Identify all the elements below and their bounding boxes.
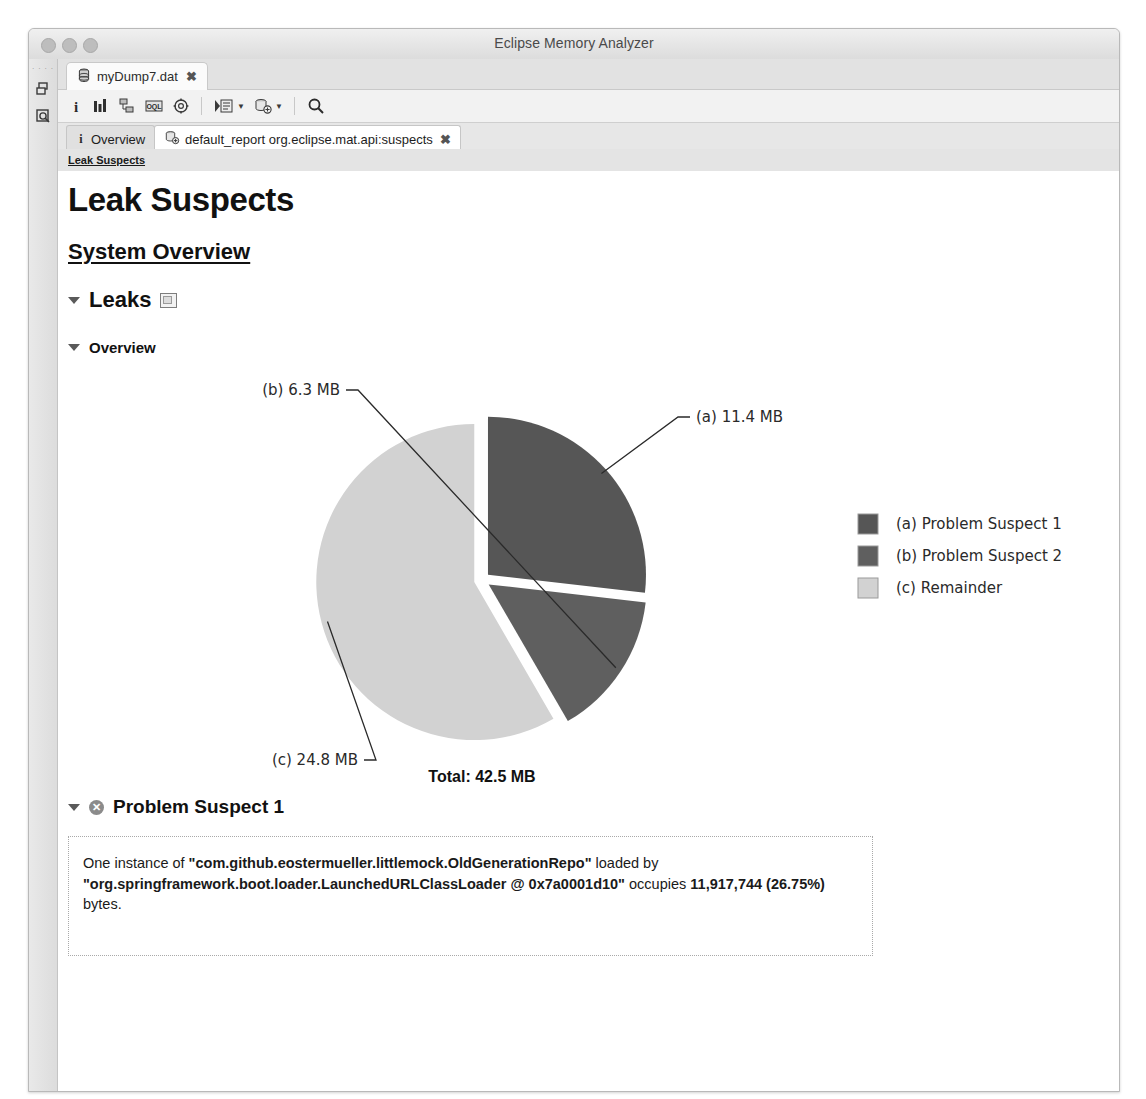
tab-overview-label: Overview bbox=[91, 132, 145, 147]
report-icon bbox=[164, 130, 180, 148]
svg-text:OQL: OQL bbox=[146, 103, 162, 111]
editor-tab-mydump7[interactable]: myDump7.dat ✖ bbox=[66, 62, 208, 90]
application-window: Eclipse Memory Analyzer · · · · bbox=[28, 28, 1120, 1092]
dominator-tree-icon[interactable] bbox=[118, 95, 136, 117]
legend-label-3: (c) Remainder bbox=[896, 579, 1003, 597]
section-problem-suspect-1-label: Problem Suspect 1 bbox=[113, 796, 284, 818]
legend-label-1: (a) Problem Suspect 1 bbox=[896, 515, 1062, 533]
inspector-gear-icon[interactable] bbox=[172, 95, 190, 117]
chevron-down-icon[interactable] bbox=[68, 804, 80, 811]
breadcrumb-link-leak-suspects[interactable]: Leak Suspects bbox=[68, 154, 145, 166]
open-in-new-window-icon[interactable] bbox=[160, 293, 177, 308]
legend-swatch-1 bbox=[858, 514, 878, 534]
query-browser-icon[interactable]: ▼ bbox=[253, 95, 283, 117]
legend-swatch-2 bbox=[858, 546, 878, 566]
error-icon: ✕ bbox=[89, 800, 104, 815]
overview-info-icon[interactable]: i bbox=[68, 95, 84, 117]
pie-slices bbox=[316, 417, 646, 740]
close-icon[interactable]: ✖ bbox=[186, 69, 197, 84]
leader-line-1 bbox=[601, 417, 690, 474]
leak-suspects-pie-chart: (a) 11.4 MB(b) 6.3 MB(c) 24.8 MB (a) Pro… bbox=[58, 362, 1119, 792]
chevron-down-icon[interactable]: ▼ bbox=[275, 102, 283, 111]
rail-drag-handle[interactable]: · · · · bbox=[32, 65, 54, 72]
pie-slice-1[interactable] bbox=[488, 417, 646, 593]
pie-legend: (a) Problem Suspect 1(b) Problem Suspect… bbox=[858, 514, 1062, 598]
desc-bytes: 11,917,744 (26.75%) bbox=[690, 876, 825, 892]
legend-swatch-3 bbox=[858, 578, 878, 598]
info-icon: i bbox=[76, 131, 86, 148]
desc-class-name: "com.github.eostermueller.littlemock.Old… bbox=[189, 855, 592, 871]
find-object-search-icon[interactable] bbox=[306, 95, 326, 117]
close-icon[interactable]: ✖ bbox=[440, 132, 451, 147]
desc-line1-post: loaded by bbox=[592, 855, 659, 871]
window-title: Eclipse Memory Analyzer bbox=[29, 35, 1119, 51]
view-tab-bar: i Overview bbox=[58, 123, 1119, 152]
editor-tab-bar: myDump7.dat ✖ bbox=[58, 59, 1119, 90]
system-overview-link[interactable]: System Overview bbox=[68, 239, 1119, 265]
report-content-area: Leak Suspects Leak Suspects System Overv… bbox=[58, 149, 1119, 1091]
editor-toolbar: i bbox=[58, 90, 1119, 123]
desc-line3-post: bytes. bbox=[83, 896, 122, 912]
fast-view-rail: · · · · bbox=[29, 59, 58, 1091]
desc-line1-pre: One instance of bbox=[83, 855, 189, 871]
section-problem-suspect-1[interactable]: ✕ Problem Suspect 1 bbox=[68, 796, 1119, 818]
desc-classloader: "org.springframework.boot.loader.Launche… bbox=[83, 876, 625, 892]
editor-area: myDump7.dat ✖ i bbox=[58, 59, 1119, 1091]
workbench-body: · · · · bbox=[29, 59, 1119, 1091]
pie-label-3: (c) 24.8 MB bbox=[272, 751, 358, 769]
histogram-icon[interactable] bbox=[92, 95, 110, 117]
problem-suspect-1-description: One instance of "com.github.eostermuelle… bbox=[68, 836, 873, 956]
svg-text:i: i bbox=[79, 132, 83, 145]
desc-line2-post: occupies bbox=[625, 876, 690, 892]
pie-label-2: (b) 6.3 MB bbox=[262, 381, 340, 399]
chevron-down-icon[interactable] bbox=[68, 344, 80, 351]
pie-chart-svg: (a) 11.4 MB(b) 6.3 MB(c) 24.8 MB (a) Pro… bbox=[58, 362, 1118, 792]
pie-label-1: (a) 11.4 MB bbox=[696, 408, 783, 426]
heap-dump-icon bbox=[77, 68, 91, 86]
chart-total-label: Total: 42.5 MB bbox=[428, 768, 535, 785]
description-paragraph: One instance of "com.github.eostermuelle… bbox=[83, 853, 858, 915]
breadcrumb: Leak Suspects bbox=[58, 149, 1119, 171]
desktop-background: Eclipse Memory Analyzer · · · · bbox=[0, 0, 1146, 1099]
run-expert-system-test-icon[interactable]: ▼ bbox=[213, 95, 245, 117]
chevron-down-icon[interactable]: ▼ bbox=[237, 102, 245, 111]
tab-default-report-label: default_report org.eclipse.mat.api:suspe… bbox=[185, 132, 433, 147]
editor-tab-label: myDump7.dat bbox=[97, 69, 178, 84]
legend-label-2: (b) Problem Suspect 2 bbox=[896, 547, 1062, 565]
oql-icon[interactable]: OQL bbox=[144, 95, 164, 117]
tab-overview[interactable]: i Overview bbox=[66, 125, 155, 152]
section-overview[interactable]: Overview bbox=[68, 339, 1119, 356]
chevron-down-icon[interactable] bbox=[68, 297, 80, 304]
heap-dump-history-icon[interactable] bbox=[33, 79, 53, 99]
toolbar-separator bbox=[294, 97, 295, 115]
open-query-browser-icon[interactable] bbox=[33, 106, 53, 126]
toolbar-separator bbox=[201, 97, 202, 115]
section-leaks-label: Leaks bbox=[89, 287, 151, 313]
page-title: Leak Suspects bbox=[68, 181, 1119, 219]
section-leaks[interactable]: Leaks bbox=[68, 287, 1119, 313]
window-titlebar: Eclipse Memory Analyzer bbox=[29, 29, 1119, 60]
section-overview-label: Overview bbox=[89, 339, 156, 356]
svg-text:i: i bbox=[74, 99, 78, 115]
